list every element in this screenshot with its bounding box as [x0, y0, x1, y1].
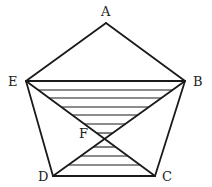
- edge-EC: [26, 81, 155, 176]
- label-E: E: [8, 74, 18, 89]
- label-A: A: [100, 4, 111, 19]
- edge-DE: [26, 81, 53, 176]
- hatching-lines: [38, 90, 172, 165]
- label-F: F: [79, 126, 88, 141]
- label-C: C: [162, 169, 172, 184]
- pentagon-edges: [26, 23, 185, 176]
- edge-AB: [106, 23, 185, 81]
- edge-BD: [53, 81, 185, 176]
- edge-EA: [26, 23, 106, 81]
- label-D: D: [38, 169, 48, 184]
- edge-BC: [155, 81, 185, 176]
- pentagon-diagram: A B C D E F: [0, 0, 212, 187]
- label-B: B: [193, 74, 203, 89]
